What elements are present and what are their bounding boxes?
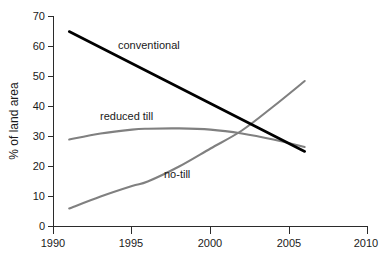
series-label-no-till: no-till bbox=[164, 168, 190, 180]
y-tick-label-30: 30 bbox=[33, 130, 45, 142]
series-line-reduced-till bbox=[69, 128, 305, 147]
series-label-conventional: conventional bbox=[118, 39, 180, 51]
line-chart: 70 60 50 40 30 20 10 0 1990 1995 2000 20… bbox=[0, 0, 384, 255]
x-axis-ticks bbox=[54, 227, 368, 234]
y-tick-label-20: 20 bbox=[33, 160, 45, 172]
x-tick-label-2000: 2000 bbox=[198, 237, 222, 249]
x-tick-label-2005: 2005 bbox=[277, 237, 301, 249]
series-label-reduced-till: reduced till bbox=[100, 110, 153, 122]
x-tick-label-1990: 1990 bbox=[41, 237, 65, 249]
y-tick-label-50: 50 bbox=[33, 70, 45, 82]
chart-container: 70 60 50 40 30 20 10 0 1990 1995 2000 20… bbox=[0, 0, 384, 255]
y-tick-label-40: 40 bbox=[33, 100, 45, 112]
y-axis-title: % of land area bbox=[7, 82, 21, 160]
y-tick-label-60: 60 bbox=[33, 40, 45, 52]
x-tick-label-2010: 2010 bbox=[354, 237, 378, 249]
x-tick-label-1995: 1995 bbox=[119, 237, 143, 249]
y-tick-label-10: 10 bbox=[33, 190, 45, 202]
series-line-no-till bbox=[69, 81, 305, 209]
y-tick-label-70: 70 bbox=[33, 10, 45, 22]
y-tick-label-0: 0 bbox=[39, 220, 45, 232]
y-axis-ticks bbox=[48, 17, 53, 227]
